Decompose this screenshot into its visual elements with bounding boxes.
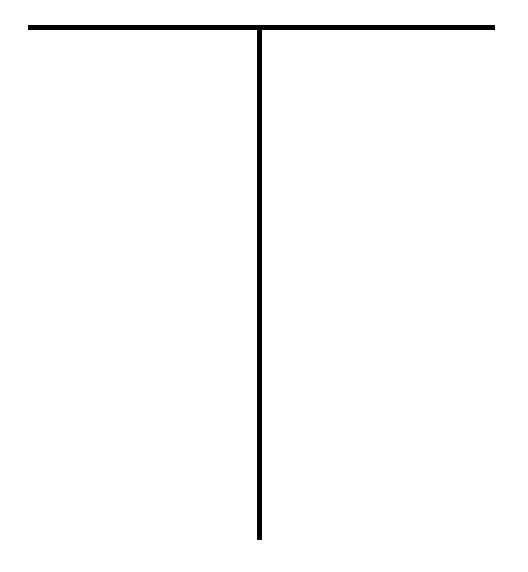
document-page [0, 0, 528, 572]
t-chart-vertical-rule [257, 28, 262, 540]
t-chart-left-column [28, 32, 256, 538]
t-chart [0, 0, 528, 572]
t-chart-right-column [263, 32, 495, 538]
